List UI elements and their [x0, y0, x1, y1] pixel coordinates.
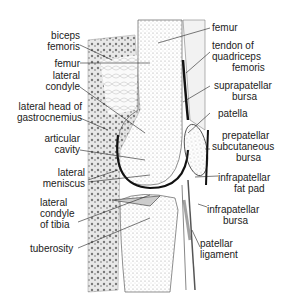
- label-lateral-head-gastrocnemius: lateral head ofgastrocnemius: [0, 101, 82, 123]
- tibia-shape: [120, 194, 178, 292]
- label-suprapatellar-bursa: suprapatellarbursa: [214, 80, 272, 102]
- label-lateral-condyle-tibia: lateralcondyleof tibia: [40, 197, 74, 230]
- label-infrapatellar-fat-pad: infrapatellarfat pad: [218, 172, 270, 194]
- label-patellar-ligament: patellarligament: [200, 238, 238, 260]
- label-articular-cavity: articularcavity: [30, 133, 80, 155]
- label-tuberosity: tuberosity: [30, 243, 73, 254]
- label-femur-left: femur: [30, 58, 80, 69]
- label-lateral-meniscus: lateralmeniscus: [30, 167, 85, 189]
- label-prepatellar-bursa: prepatellarsubcutaneousbursa: [212, 130, 274, 163]
- label-infrapatellar-bursa: infrapatellarbursa: [207, 204, 259, 226]
- label-femur-right: femur: [212, 22, 238, 33]
- label-patella: patella: [218, 108, 247, 119]
- label-tendon-quadriceps: tendon ofquadricepsfemoris: [212, 40, 265, 73]
- label-lateral-condyle: lateralcondyle: [30, 70, 80, 92]
- label-biceps-femoris: bicepsfemoris: [30, 30, 80, 52]
